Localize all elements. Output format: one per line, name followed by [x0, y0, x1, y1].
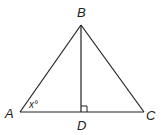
triangle-diagram: B A C D x°	[0, 0, 163, 135]
segment-bc	[81, 25, 144, 112]
vertex-label-c: C	[146, 108, 156, 123]
vertex-label-a: A	[4, 106, 14, 121]
right-angle-marker	[81, 106, 87, 112]
angle-label-x: x°	[28, 99, 38, 110]
vertex-label-d: D	[77, 118, 86, 133]
vertex-label-b: B	[77, 5, 86, 20]
